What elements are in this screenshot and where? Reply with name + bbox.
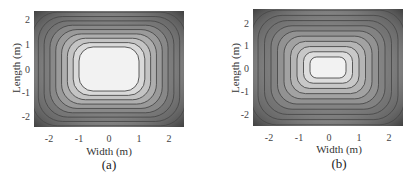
x-tick: -1 (291, 133, 307, 143)
x-tick: -1 (71, 134, 87, 144)
y-tick: 2 (235, 19, 249, 29)
y-tick: 2 (16, 15, 30, 25)
contour-line (79, 47, 139, 91)
contour-plot-b (253, 9, 403, 126)
x-tick: -2 (41, 134, 57, 144)
y-axis-label: Length (m) (10, 38, 22, 98)
x-tick: -2 (261, 133, 277, 143)
contour-plot-a (34, 11, 184, 127)
x-axis-label: Width (m) (304, 143, 374, 155)
panel-b: 2 1 0 -1 -2 Length (m) -2 -1 0 1 2 Width… (207, 0, 414, 180)
panel-caption: (a) (94, 157, 124, 173)
panel-caption: (b) (324, 156, 354, 172)
y-tick: -2 (235, 110, 249, 120)
contour-svg (34, 11, 184, 127)
x-tick: 1 (131, 134, 147, 144)
x-tick: 2 (381, 133, 397, 143)
y-axis-label: Length (m) (229, 38, 241, 98)
x-tick: 0 (101, 134, 117, 144)
panel-a: 2 1 0 -1 -2 Length (m) -2 -1 0 1 2 Width… (0, 0, 207, 180)
y-tick: -2 (16, 112, 30, 122)
x-tick: 2 (161, 134, 177, 144)
x-tick: 1 (351, 133, 367, 143)
contour-svg (253, 9, 403, 126)
x-axis-label: Width (m) (74, 145, 144, 157)
contour-line (310, 57, 346, 78)
x-tick: 0 (321, 133, 337, 143)
